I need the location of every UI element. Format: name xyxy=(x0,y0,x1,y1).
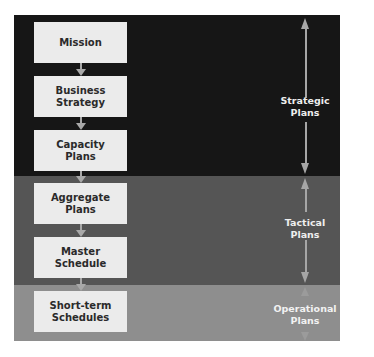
flow-arrow-down-icon xyxy=(78,170,83,183)
strategic-plans-label: Strategic Plans xyxy=(270,95,340,119)
box-label: Capacity xyxy=(56,139,105,151)
level-label-line: Operational xyxy=(270,303,340,315)
level-label-line: Plans xyxy=(270,107,340,119)
flow-arrow-down-icon xyxy=(78,224,83,237)
box-label: Schedules xyxy=(50,312,112,324)
level-label-line: Tactical xyxy=(270,217,340,229)
flow-arrow-down-icon xyxy=(78,278,83,291)
level-label-line: Plans xyxy=(270,315,340,327)
box-label: Schedule xyxy=(55,258,107,270)
level-label-line: Strategic xyxy=(270,95,340,107)
short-term-schedules-box: Short-termSchedules xyxy=(34,291,127,332)
business-strategy-box: BusinessStrategy xyxy=(34,76,127,117)
box-label: Plans xyxy=(56,151,105,163)
box-label: Business xyxy=(56,85,106,97)
master-schedule-box: MasterSchedule xyxy=(34,237,127,278)
aggregate-plans-box: AggregatePlans xyxy=(34,183,127,224)
box-label: Aggregate xyxy=(51,192,110,204)
capacity-plans-box: CapacityPlans xyxy=(34,130,127,171)
operational-plans-label: Operational Plans xyxy=(270,303,340,327)
flow-arrow-down-icon xyxy=(78,116,83,130)
box-label: Strategy xyxy=(56,97,106,109)
planning-diagram: Mission BusinessStrategy CapacityPlans A… xyxy=(14,15,340,341)
box-label: Master xyxy=(55,246,107,258)
box-label: Mission xyxy=(59,37,102,49)
flow-arrow-down-icon xyxy=(78,62,83,76)
tactical-plans-label: Tactical Plans xyxy=(270,217,340,241)
mission-box: Mission xyxy=(34,22,127,63)
level-label-line: Plans xyxy=(270,229,340,241)
box-label: Short-term xyxy=(50,300,112,312)
box-label: Plans xyxy=(51,204,110,216)
